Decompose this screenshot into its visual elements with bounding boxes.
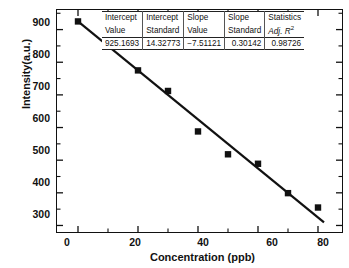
y-tick-label: 400	[8, 176, 50, 188]
y-tick-label: 300	[8, 208, 50, 220]
table-header-row-2: Value Standard Value Standard Adj. R2	[102, 23, 304, 37]
x-tick-label: 60	[252, 236, 292, 248]
table-header-row-1: Intercept Intercept Slope Slope Statisti…	[102, 12, 304, 24]
table-value-row: 925.1693 14.32773 −7.51121 0.30142 0.987…	[102, 38, 304, 50]
y-tick-label: 800	[8, 48, 50, 60]
data-point-marker	[195, 128, 201, 134]
header-cell: Standard	[225, 23, 265, 37]
data-point-marker	[135, 67, 141, 73]
header-cell: Intercept	[143, 12, 184, 24]
header-cell: Slope	[225, 12, 265, 24]
data-point-marker	[225, 151, 231, 157]
header-cell: Intercept	[102, 12, 143, 24]
x-tick-label: 80	[303, 236, 343, 248]
x-tick-label: 0	[47, 236, 87, 248]
x-tick-label: 40	[183, 236, 223, 248]
header-cell: Statistics	[265, 12, 304, 24]
superscript-2: 2	[291, 25, 294, 31]
value-intercept-stderr: 14.32773	[143, 38, 184, 50]
value-adj-r2: 0.98726	[265, 38, 304, 50]
x-tick-label: 20	[115, 236, 155, 248]
data-point-marker	[165, 88, 171, 94]
y-tick-label: 700	[8, 80, 50, 92]
chart-figure: Intensity(a.u.) Concentration (ppb) 900 …	[0, 0, 349, 268]
statistics-table: Intercept Intercept Slope Slope Statisti…	[102, 11, 304, 50]
value-intercept: 925.1693	[102, 38, 143, 50]
value-slope: −7.51121	[184, 38, 225, 50]
data-point-marker	[285, 190, 291, 196]
header-cell: Standard	[143, 23, 184, 37]
y-tick-label: 500	[8, 144, 50, 156]
x-axis-title: Concentration (ppb)	[60, 251, 345, 263]
header-cell-adj-r2: Adj. R2	[265, 23, 304, 37]
data-point-marker	[315, 204, 321, 210]
header-cell: Value	[184, 23, 225, 37]
y-tick-label: 600	[8, 112, 50, 124]
header-cell: Value	[102, 23, 143, 37]
value-slope-stderr: 0.30142	[225, 38, 265, 50]
data-point-marker	[75, 18, 81, 24]
data-point-marker	[255, 161, 261, 167]
header-cell: Slope	[184, 12, 225, 24]
y-tick-label: 900	[8, 16, 50, 28]
adj-r-label: Adj. R	[268, 27, 290, 36]
